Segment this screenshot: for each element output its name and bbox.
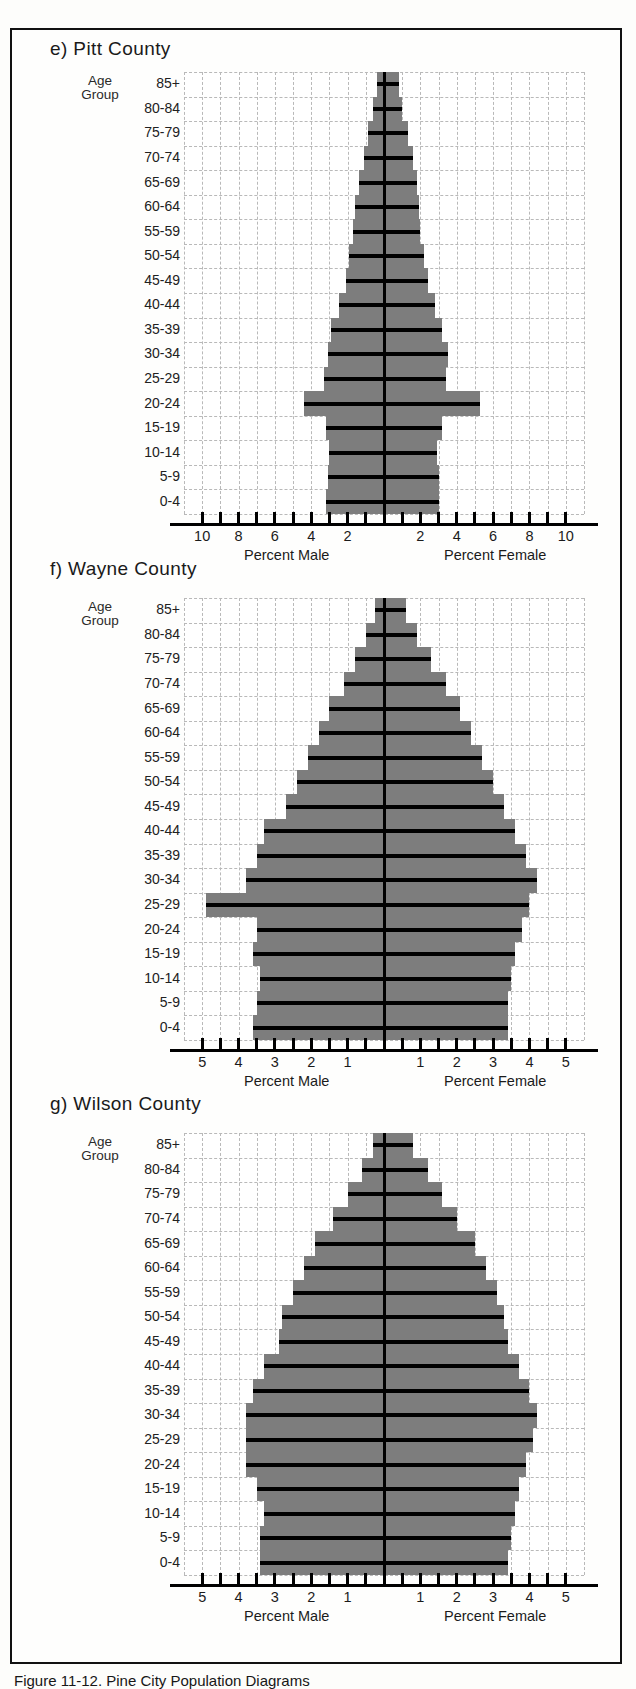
x-axis-tick <box>310 512 313 523</box>
age-group-label: 75-79 <box>144 1185 180 1201</box>
bar-rule <box>264 1364 519 1368</box>
x-axis-tick-minor <box>473 512 476 523</box>
x-axis-tick-label: 3 <box>478 1054 508 1070</box>
x-axis-tick <box>419 512 422 523</box>
x-axis-tick <box>273 1573 276 1584</box>
gridline-vertical <box>566 1133 567 1575</box>
panel-title-g: g) Wilson County <box>50 1093 201 1115</box>
x-axis-tick-label: 6 <box>478 528 508 544</box>
panel-title-f: f) Wayne County <box>50 558 197 580</box>
bar-rule <box>366 633 417 637</box>
bar-rule <box>297 780 493 784</box>
bar-rule <box>246 1463 526 1467</box>
age-group-label: 10-14 <box>144 970 180 986</box>
x-axis-tick-minor <box>328 1038 331 1049</box>
x-axis-tick <box>455 1038 458 1049</box>
bar-rule <box>359 181 417 185</box>
x-axis-tick-label: 3 <box>478 1589 508 1605</box>
age-group-heading-line1: Age <box>88 1134 112 1149</box>
gridline-vertical <box>257 72 258 514</box>
x-axis-tick-label: 4 <box>442 528 472 544</box>
age-group-label: 35-39 <box>144 1382 180 1398</box>
age-group-label: 10-14 <box>144 444 180 460</box>
x-axis-tick <box>273 1038 276 1049</box>
gridline-vertical <box>184 1133 185 1575</box>
age-group-label: 35-39 <box>144 321 180 337</box>
x-axis-tick-minor <box>546 1573 549 1584</box>
x-axis-tick <box>419 1038 422 1049</box>
x-axis-tick-label: 3 <box>260 1589 290 1605</box>
gridline-vertical <box>184 72 185 514</box>
x-axis-tick <box>383 1573 386 1584</box>
x-axis-tick-label: 5 <box>187 1054 217 1070</box>
age-group-label: 55-59 <box>144 749 180 765</box>
x-axis-tick-label: 10 <box>551 528 581 544</box>
x-axis-tick-label: 2 <box>405 528 435 544</box>
age-group-label: 70-74 <box>144 149 180 165</box>
x-axis-line <box>170 1584 598 1587</box>
x-axis-tick <box>237 1038 240 1049</box>
x-axis-tick <box>237 512 240 523</box>
center-axis-line <box>383 72 386 514</box>
gridline-vertical <box>475 72 476 514</box>
plot-area-f <box>184 598 584 1040</box>
x-axis-tick-minor <box>255 512 258 523</box>
bar-rule <box>329 707 460 711</box>
gridline-vertical <box>584 72 585 514</box>
age-group-label: 5-9 <box>160 468 180 484</box>
x-axis-tick-minor <box>255 1573 258 1584</box>
gridline-vertical <box>439 72 440 514</box>
gridline-vertical <box>566 598 567 1040</box>
bar-rule <box>246 1438 533 1442</box>
bar-rule <box>346 279 428 283</box>
age-group-heading: AgeGroup <box>70 600 130 628</box>
x-axis-tick-minor <box>437 512 440 523</box>
x-axis-line <box>170 1049 598 1052</box>
gridline-vertical <box>529 72 530 514</box>
age-group-heading-line1: Age <box>88 73 112 88</box>
bar-rule <box>368 131 408 135</box>
age-group-label: 25-29 <box>144 896 180 912</box>
age-group-label: 50-54 <box>144 1308 180 1324</box>
bar-rule <box>253 1389 529 1393</box>
bar-rule <box>355 657 431 661</box>
x-axis-tick-label: 10 <box>187 528 217 544</box>
x-axis-tick <box>564 1573 567 1584</box>
bar-rule <box>264 1512 515 1516</box>
x-axis-tick <box>528 512 531 523</box>
x-axis-tick-label: 3 <box>260 1054 290 1070</box>
x-axis-tick-label: 6 <box>260 528 290 544</box>
bar-rule <box>331 328 442 332</box>
age-group-label: 30-34 <box>144 345 180 361</box>
age-group-label: 60-64 <box>144 198 180 214</box>
x-axis-tick-label: 1 <box>333 1589 363 1605</box>
x-axis-tick <box>201 512 204 523</box>
gridline-vertical <box>548 598 549 1040</box>
x-axis-tick-label: 8 <box>514 528 544 544</box>
gridline-vertical <box>275 72 276 514</box>
x-axis-tick <box>237 1573 240 1584</box>
x-axis-tick-minor <box>473 1038 476 1049</box>
age-group-label: 5-9 <box>160 1529 180 1545</box>
age-group-label: 85+ <box>156 601 180 617</box>
x-axis-tick-label: 8 <box>224 528 254 544</box>
plot-area-g <box>184 1133 584 1575</box>
bar-rule <box>257 854 526 858</box>
x-axis-tick <box>383 512 386 523</box>
age-group-label: 70-74 <box>144 1210 180 1226</box>
x-axis-tick-minor <box>546 1038 549 1049</box>
age-group-label: 20-24 <box>144 1456 180 1472</box>
gridline-vertical <box>239 598 240 1040</box>
plot-area-e <box>184 72 584 514</box>
age-group-heading-line2: Group <box>81 87 119 102</box>
bar-rule <box>353 230 420 234</box>
gridline-vertical <box>239 72 240 514</box>
x-axis-tick-label: 2 <box>296 1054 326 1070</box>
gridline-vertical <box>584 1133 585 1575</box>
age-group-label: 80-84 <box>144 626 180 642</box>
age-group-label: 45-49 <box>144 798 180 814</box>
gridline-vertical <box>220 598 221 1040</box>
bar-rule <box>373 1143 413 1147</box>
x-axis-tick-minor <box>292 512 295 523</box>
gridline-vertical <box>529 1133 530 1575</box>
